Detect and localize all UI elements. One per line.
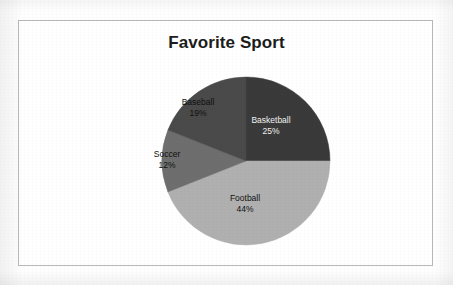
pie-plot-area: Basketball 25% Football 44% Soccer 12% B… — [131, 75, 361, 251]
pie-chart — [131, 75, 361, 251]
scanned-page: Favorite Sport Basketball 25% Football 4… — [0, 0, 453, 285]
pie-slice-group — [162, 77, 330, 245]
pie-slice-basketball — [246, 77, 330, 161]
chart-title: Favorite Sport — [19, 33, 434, 53]
chart-frame: Favorite Sport Basketball 25% Football 4… — [18, 20, 433, 266]
